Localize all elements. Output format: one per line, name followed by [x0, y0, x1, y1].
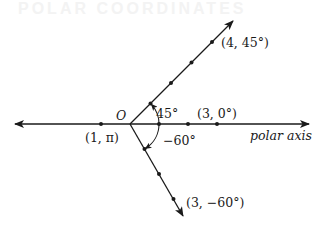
point-1-pi: [99, 122, 103, 126]
polar-axis-label: polar axis: [250, 128, 312, 143]
angle-label-neg60: −60°: [163, 133, 196, 148]
angle-label-45: 45°: [156, 106, 178, 121]
angle-arc-negative-60: [146, 124, 160, 149]
polar-coordinates-diagram: O (4, 45°) (3, 0°) (1, π) (3, −60°) 45° …: [0, 0, 324, 232]
point-label-3-0: (3, 0°): [197, 106, 237, 121]
point-label-1-pi: (1, π): [85, 130, 119, 145]
point-label-4-45: (4, 45°): [221, 35, 269, 50]
origin-label: O: [116, 108, 126, 123]
point-label-3-neg60: (3, −60°): [186, 195, 244, 210]
